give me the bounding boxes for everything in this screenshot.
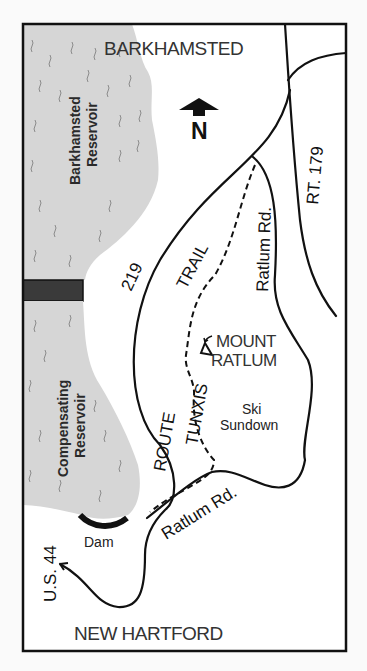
causeway-bar [23,280,83,301]
mount-ratlum-label-2: RATLUM [211,351,277,370]
ski-sundown-label-1: Ski [242,401,261,417]
barkhamsted-reservoir-label-1: Barkhamsted [67,96,83,185]
north-label: N [191,118,208,144]
ratlum-rd-upper-label: Ratlum Rd. [253,206,275,292]
compensating-reservoir-label-2: Reservoir [72,393,88,458]
compensating-reservoir-label-1: Compensating [55,380,71,477]
us44-label: U.S. 44 [41,545,60,602]
town-barkhamsted: BARKHAMSTED [104,38,243,59]
trail-map: N BARKHAMSTED NEW HARTFORD Barkhamsted R… [0,0,367,671]
town-new-hartford: NEW HARTFORD [74,623,223,644]
dam-label: Dam [84,534,114,550]
ski-sundown-label-2: Sundown [220,417,278,433]
barkhamsted-reservoir-label-2: Reservoir [84,102,100,167]
mount-ratlum-label-1: MOUNT [216,332,276,351]
